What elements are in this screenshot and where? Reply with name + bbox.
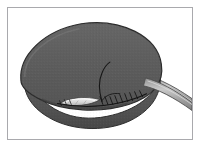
figure-frame: Sutured organ with exiting tube <box>7 7 193 140</box>
surgical-illustration <box>8 8 192 139</box>
figure-screen: Sutured organ with exiting tube <box>0 0 202 149</box>
